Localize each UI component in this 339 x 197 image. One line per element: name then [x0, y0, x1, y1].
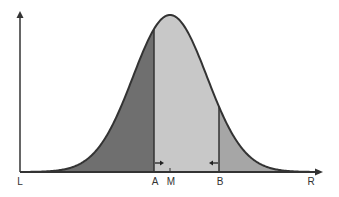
label-r: R [307, 177, 314, 187]
label-m: M [167, 177, 175, 187]
y-axis-arrowhead-icon [17, 11, 24, 18]
label-l: L [17, 177, 23, 187]
region-left [22, 29, 154, 172]
x-axis-arrowhead-icon [315, 169, 323, 176]
shaded-regions [22, 15, 310, 172]
bell-curve-diagram [0, 0, 339, 197]
label-b: B [217, 177, 224, 187]
region-right [219, 107, 310, 172]
label-a: A [152, 177, 159, 187]
region-middle [154, 15, 219, 172]
